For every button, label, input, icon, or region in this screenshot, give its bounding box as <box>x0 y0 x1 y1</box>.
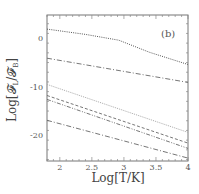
series-curve-5 <box>47 99 188 148</box>
x-tick-label: 4 <box>185 163 190 172</box>
series-curve-6 <box>47 120 188 158</box>
x-tick-label: 2 <box>57 163 62 172</box>
series-curve-4 <box>47 96 188 144</box>
series-curve-2 <box>47 58 188 82</box>
panel-label: (b) <box>161 28 175 39</box>
ylabel-prefix: Log[ <box>5 94 19 122</box>
ylabel-close: ] <box>5 58 19 63</box>
y-tick-labels: 0-10-20 <box>30 34 43 140</box>
y-axis-label: Log[𝓕L/𝓕B] <box>5 58 20 122</box>
svg-text:Log[𝓕L/𝓕B]: Log[𝓕L/𝓕B] <box>5 58 20 122</box>
series-group <box>47 29 188 158</box>
series-curve-3 <box>47 84 188 132</box>
y-tick-label: -10 <box>30 83 43 92</box>
x-axis-label: Log[T/K] <box>91 171 144 185</box>
y-tick-label: 0 <box>38 34 43 43</box>
chart: 22.533.54 0-10-20 (b) Log[T/K] Log[𝓕L/𝓕B… <box>0 0 199 194</box>
y-tick-label: -20 <box>30 131 43 140</box>
x-tick-label: 3.5 <box>150 163 163 172</box>
